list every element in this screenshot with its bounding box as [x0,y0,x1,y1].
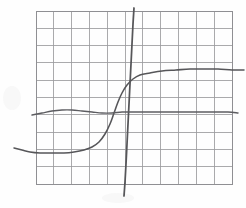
graph-canvas [0,0,246,208]
paper-smudge-left [3,86,21,110]
paper-smudge-bottom [102,193,134,203]
paper-background [0,0,246,208]
figure-root [0,0,246,208]
